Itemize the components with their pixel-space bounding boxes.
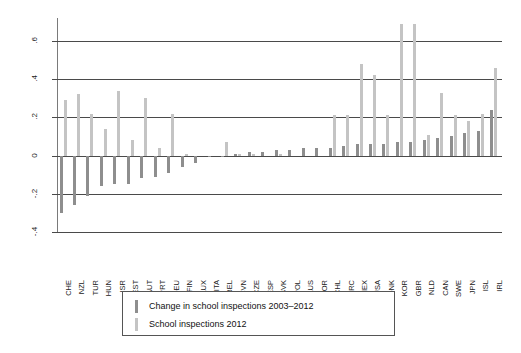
bar-level-NZL — [77, 94, 80, 155]
bar-change-KOR — [396, 142, 399, 155]
bar-group — [100, 18, 110, 232]
bar-change-SWE — [450, 136, 453, 155]
y-tick-label: .6 — [30, 30, 39, 50]
bar-group — [369, 18, 379, 232]
bar-group — [140, 18, 150, 232]
bar-change-AUT — [140, 156, 143, 179]
y-tick-label: .2 — [30, 107, 39, 127]
bar-change-ITA — [208, 156, 211, 158]
x-axis-labels: CHENZLTURHUNISRESTAUTPRTDEUFINLUXITABELS… — [58, 236, 502, 282]
bar-level-NLD — [427, 135, 430, 156]
bar-group — [194, 18, 204, 232]
bar-level-IRL — [494, 68, 497, 156]
bar-group — [154, 18, 164, 232]
x-label-SWE: SWE — [454, 280, 463, 297]
x-label-GBR: GBR — [414, 280, 423, 296]
y-tick — [52, 232, 58, 233]
x-label-NLD: NLD — [427, 280, 436, 295]
bar-group — [275, 18, 285, 232]
bar-group — [477, 18, 487, 232]
bar-change-DNK — [382, 144, 385, 155]
y-tick-label: .4 — [30, 69, 39, 89]
bar-change-CHL — [329, 148, 332, 156]
plot-area — [58, 18, 502, 232]
bar-level-GRC — [346, 115, 349, 155]
bar-change-BEL — [221, 156, 224, 157]
bar-group — [329, 18, 339, 232]
x-label-CHE: CHE — [64, 280, 73, 296]
chart-legend: Change in school inspections 2003–2012 S… — [122, 291, 395, 336]
legend-swatch-level-icon — [135, 318, 138, 331]
bar-change-TUR — [86, 156, 89, 196]
bar-level-MEX — [360, 64, 363, 156]
y-tick-label: -.2 — [30, 183, 39, 203]
bar-change-SVK — [275, 150, 278, 156]
bar-change-FIN — [181, 156, 184, 167]
gridline--.4 — [58, 232, 502, 233]
bar-change-USA — [369, 144, 372, 155]
bar-level-TUR — [90, 114, 93, 156]
bar-change-MEX — [356, 144, 359, 155]
bar-level-GBR — [413, 24, 416, 156]
x-label-HUN: HUN — [104, 280, 113, 296]
bar-change-AUS — [302, 148, 305, 156]
bar-change-SVN — [234, 154, 237, 156]
x-label-JPN: JPN — [468, 280, 477, 294]
bar-group — [288, 18, 298, 232]
legend-item-change: Change in school inspections 2003–2012 — [129, 297, 394, 315]
y-tick — [52, 41, 58, 42]
bar-level-EST — [131, 140, 134, 155]
bar-group — [409, 18, 419, 232]
bar-level-USA — [373, 75, 376, 155]
bar-group — [436, 18, 446, 232]
bar-level-CAN — [440, 93, 443, 156]
x-label-ISL: ISL — [481, 280, 490, 291]
bar-level-SWE — [454, 115, 457, 155]
x-label-IRL: IRL — [495, 280, 504, 292]
bar-level-KOR — [400, 24, 403, 156]
bar-group — [208, 18, 218, 232]
legend-item-level: School inspections 2012 — [129, 315, 394, 333]
bar-level-BEL — [225, 142, 228, 155]
bar-group — [382, 18, 392, 232]
bar-group — [315, 18, 325, 232]
y-tick — [52, 156, 58, 157]
bar-group — [60, 18, 70, 232]
bar-group — [113, 18, 123, 232]
legend-label-level: School inspections 2012 — [149, 319, 247, 329]
bar-level-DEU — [171, 114, 174, 156]
bar-group — [356, 18, 366, 232]
bar-change-HUN — [100, 156, 103, 187]
bar-change-POL — [288, 150, 291, 156]
bar-level-CHL — [333, 115, 336, 155]
bar-change-GBR — [409, 142, 412, 155]
bar-group — [302, 18, 312, 232]
bar-level-CHE — [64, 100, 67, 155]
bar-change-DEU — [167, 156, 170, 173]
bar-change-CHE — [60, 156, 63, 213]
bar-group — [167, 18, 177, 232]
bar-level-DNK — [386, 115, 389, 155]
bar-group — [234, 18, 244, 232]
bar-group — [423, 18, 433, 232]
bar-change-ISR — [113, 156, 116, 185]
bar-level-SVK — [279, 154, 282, 156]
bar-level-ISL — [481, 114, 484, 156]
x-label-CAN: CAN — [441, 280, 450, 296]
bar-change-NOR — [315, 148, 318, 156]
x-label-KOR: KOR — [400, 280, 409, 296]
y-tick — [52, 117, 58, 118]
x-label-NZL: NZL — [77, 280, 86, 294]
bar-change-LUX — [194, 156, 197, 164]
bar-level-JPN — [467, 121, 470, 155]
bar-change-CAN — [436, 138, 439, 155]
bar-group — [73, 18, 83, 232]
bar-level-SVN — [238, 154, 241, 156]
bar-group — [490, 18, 500, 232]
bar-change-NZL — [73, 156, 76, 206]
x-label-TUR: TUR — [91, 280, 100, 295]
bar-level-ISR — [117, 91, 120, 156]
bar-group — [396, 18, 406, 232]
y-tick-label: 0 — [30, 145, 39, 165]
bar-change-ISL — [477, 131, 480, 156]
